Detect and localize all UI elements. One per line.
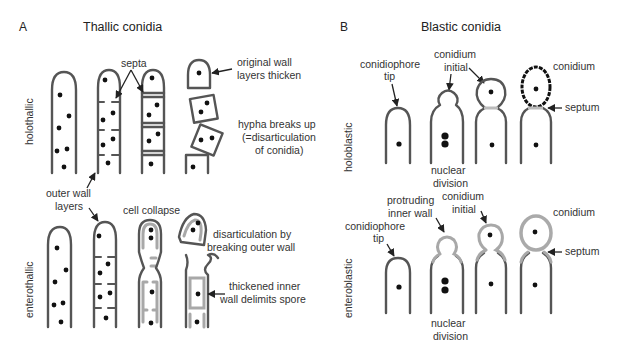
panel-b-letter: B (340, 20, 348, 34)
enteroblastic-stage-3 (476, 225, 506, 313)
holothallic-hypha-3 (142, 70, 164, 173)
label-disarticulation-1: disarticulation by (213, 228, 292, 240)
label-ent-conidiophore-2: tip (373, 232, 384, 244)
label-nuclear-1: nuclear (431, 164, 466, 176)
holoblastic-stage-4 (521, 67, 551, 163)
label-septa: septa (121, 57, 147, 69)
label-conidiophore-2: tip (384, 70, 395, 82)
label-conidium-initial-2: initial (444, 61, 468, 73)
label-original-wall-1: original wall (237, 56, 292, 68)
label-protruding-1: protruding (387, 194, 434, 206)
enteroblastic-stage-2 (431, 237, 463, 313)
label-cell-collapse: cell collapse (123, 204, 180, 216)
label-thickened-2: wall delimits spore (219, 293, 306, 305)
label-conidiophore-1: conidiophore (360, 58, 420, 70)
holothallic-disarticulated (186, 60, 223, 173)
panel-a-letter: A (19, 20, 27, 34)
enteroblastic-stage-1 (386, 258, 410, 313)
label-outer-wall-1: outer wall (46, 187, 91, 199)
holoblastic-stage-1 (386, 108, 410, 163)
label-ent-septum: septum (565, 245, 600, 257)
holothallic-hypha-1 (52, 72, 76, 173)
enteroblastic-stage-4 (521, 216, 551, 313)
label-disarticulation-2: breaking outer wall (207, 241, 295, 253)
label-protruding-2: inner wall (388, 207, 432, 219)
label-outer-wall-2: layers (55, 200, 83, 212)
label-ent-nuclear-1: nuclear (431, 317, 466, 329)
holoblastic-stage-3 (476, 79, 506, 163)
panel-b-title: Blastic conidia (421, 20, 501, 34)
panel-a-title: Thallic conidia (83, 20, 162, 34)
label-septum: septum (565, 101, 600, 113)
row-label-holoblastic: holoblastic (342, 122, 354, 172)
enterothallic-hypha-3-collapse (139, 220, 161, 327)
conidia-diagram: A Thallic conidia holothallic enterothal… (0, 0, 619, 353)
label-hypha-breaks-3: of conidia) (255, 144, 303, 156)
label-hypha-breaks-1: hypha breaks up (238, 118, 316, 130)
holothallic-hypha-2 (98, 70, 120, 173)
label-ent-conidiophore-1: conidiophore (345, 220, 405, 232)
holoblastic-stage-2 (431, 91, 463, 164)
row-label-holothallic: holothallic (23, 98, 35, 145)
label-original-wall-2: layers thicken (237, 69, 301, 81)
row-label-enterothallic: enterothallic (23, 261, 35, 318)
label-conidium-initial-1: conidium (434, 48, 476, 60)
label-conidium: conidium (553, 60, 595, 72)
label-nuclear-2: division (433, 177, 468, 189)
enterothallic-hypha-2 (94, 222, 116, 327)
label-ent-conidium-initial-2: initial (452, 203, 476, 215)
label-ent-nuclear-2: division (433, 330, 468, 342)
row-label-enteroblastic: enteroblastic (342, 258, 354, 318)
label-thickened-1: thickened inner (229, 280, 301, 292)
label-ent-conidium: conidium (553, 206, 595, 218)
label-hypha-breaks-2: (=disarticulation (242, 131, 316, 143)
enterothallic-hypha-1 (48, 227, 71, 327)
label-ent-conidium-initial-1: conidium (442, 190, 484, 202)
